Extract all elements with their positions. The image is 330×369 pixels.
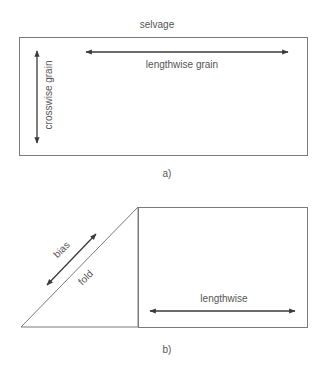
caption-b: b) <box>163 344 172 355</box>
figure-a: selvage lengthwise grain crosswise grain… <box>20 19 308 179</box>
fold-label: fold <box>76 268 95 287</box>
lengthwise-label: lengthwise <box>200 293 248 304</box>
fabric-grain-diagram: selvage lengthwise grain crosswise grain… <box>0 0 330 369</box>
fabric-rectangle <box>20 38 308 156</box>
selvage-label: selvage <box>140 19 175 30</box>
figure-b: bias fold lengthwise b) <box>21 207 308 355</box>
bias-triangle <box>21 207 138 327</box>
crosswise-grain-label: crosswise grain <box>43 61 54 130</box>
fabric-rectangle-folded <box>139 208 308 328</box>
bias-label: bias <box>51 239 72 260</box>
caption-a: a) <box>163 168 172 179</box>
lengthwise-grain-label: lengthwise grain <box>146 59 218 70</box>
